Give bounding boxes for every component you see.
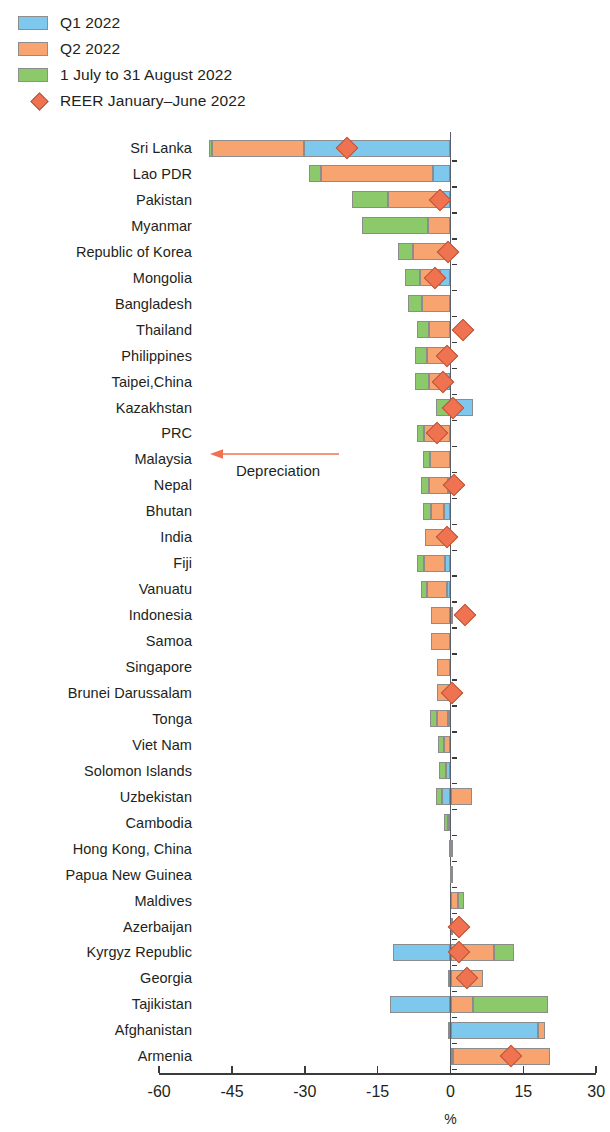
bar-segment <box>437 659 450 676</box>
bar-segment <box>451 840 453 857</box>
bar-segment <box>431 503 444 520</box>
x-axis-title: % <box>444 1111 456 1127</box>
bar-segment <box>437 710 447 727</box>
bar-segment <box>417 425 424 442</box>
reer-diamond-marker <box>453 604 476 627</box>
category-axis-tick <box>452 446 457 447</box>
category-axis-tick <box>452 783 457 784</box>
category-label: Myanmar <box>131 218 192 234</box>
category-label: Republic of Korea <box>76 244 192 260</box>
bar-segment <box>451 1022 539 1039</box>
bar-segment <box>415 373 429 390</box>
bar-segment <box>442 788 451 805</box>
category-label: Kyrgyz Republic <box>86 944 192 960</box>
bar-segment <box>494 944 514 961</box>
category-axis-tick <box>452 705 457 706</box>
x-axis-tick <box>231 1066 233 1073</box>
bar-segment <box>448 970 451 987</box>
category-axis-tick <box>452 420 457 421</box>
bar-segment <box>451 996 474 1013</box>
category-axis-tick <box>452 524 457 525</box>
plot-area: Depreciation % -60-45-30-1501530Sri Lank… <box>0 0 610 1132</box>
bar-segment <box>424 555 445 572</box>
bar-segment <box>444 814 448 831</box>
category-label: Vanuatu <box>139 581 192 597</box>
bar-segment <box>408 295 422 312</box>
category-axis-tick <box>452 679 457 680</box>
bar-segment <box>438 736 444 753</box>
category-label: Sri Lanka <box>130 140 192 156</box>
bar-segment <box>448 710 451 727</box>
category-label: Lao PDR <box>133 166 192 182</box>
category-axis-tick <box>452 264 457 265</box>
bar-segment <box>436 788 442 805</box>
bar-segment <box>352 191 388 208</box>
bar-segment <box>421 581 427 598</box>
category-axis-tick <box>452 394 457 395</box>
bar-segment <box>304 140 451 157</box>
bar-segment <box>415 347 427 364</box>
bar-segment <box>321 165 433 182</box>
category-label: Armenia <box>138 1048 192 1064</box>
bar-segment <box>538 1022 545 1039</box>
bar-segment <box>212 140 304 157</box>
category-axis-tick <box>452 653 457 654</box>
bar-segment <box>430 710 438 727</box>
category-label: Samoa <box>146 633 192 649</box>
bar-segment <box>430 451 451 468</box>
category-axis-tick <box>452 290 457 291</box>
category-axis-tick <box>452 238 457 239</box>
reer-diamond-marker <box>451 318 474 341</box>
category-axis-tick <box>452 342 457 343</box>
category-axis-tick <box>452 316 457 317</box>
category-label: Brunei Darussalam <box>68 685 192 701</box>
category-label: Bangladesh <box>115 296 192 312</box>
x-axis-tick <box>377 1066 379 1073</box>
bar-segment <box>405 269 420 286</box>
bar-segment <box>362 217 428 234</box>
x-axis-tick <box>523 1066 525 1073</box>
bar-segment <box>393 944 451 961</box>
category-label: Nepal <box>154 477 192 493</box>
depreciation-label: Depreciation <box>236 462 320 479</box>
bar-segment <box>209 140 212 157</box>
x-axis-tick-label: -45 <box>220 1083 243 1101</box>
bar-segment <box>417 321 428 338</box>
category-label: Fiji <box>173 555 192 571</box>
category-label: Uzbekistan <box>120 789 192 805</box>
category-label: Bhutan <box>146 503 192 519</box>
bar-segment <box>428 217 451 234</box>
bar-segment <box>451 788 473 805</box>
category-label: Philippines <box>121 348 192 364</box>
x-axis-tick <box>595 1066 597 1073</box>
category-axis-tick <box>452 991 457 992</box>
x-axis-tick <box>304 1066 306 1073</box>
bar-segment <box>444 736 451 753</box>
bar-segment <box>448 814 451 831</box>
category-label: Maldives <box>134 893 192 909</box>
category-label: Viet Nam <box>132 737 192 753</box>
x-axis-tick-label: -15 <box>366 1083 389 1101</box>
category-label: Taipei,China <box>112 374 192 390</box>
category-label: Azerbaijan <box>123 919 192 935</box>
x-axis-tick-label: -60 <box>148 1083 171 1101</box>
category-label: Thailand <box>136 322 192 338</box>
exchange-rate-chart: Q1 2022Q2 20221 July to 31 August 2022RE… <box>0 0 610 1132</box>
bar-segment <box>451 866 453 883</box>
category-label: Kazakhstan <box>116 400 192 416</box>
bar-segment <box>451 892 459 909</box>
category-label: Mongolia <box>133 270 192 286</box>
bar-segment <box>431 607 451 624</box>
category-label: Singapore <box>125 659 192 675</box>
bar-segment <box>447 581 451 598</box>
category-axis-tick <box>452 160 457 161</box>
category-label: Georgia <box>140 970 192 986</box>
category-axis-tick <box>452 835 457 836</box>
category-axis-tick <box>452 601 457 602</box>
bar-segment <box>427 581 447 598</box>
x-axis-line <box>159 1073 596 1075</box>
bar-segment <box>439 762 446 779</box>
bar-segment <box>448 1022 451 1039</box>
category-axis-tick <box>452 861 457 862</box>
bar-segment <box>423 503 431 520</box>
